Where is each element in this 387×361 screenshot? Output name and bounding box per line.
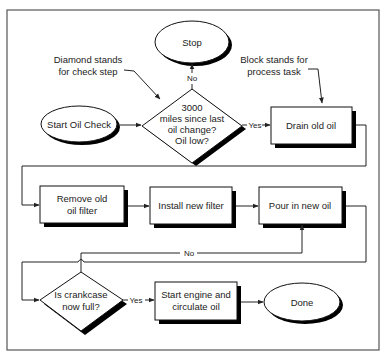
node-check-line4: Oil low? [175, 135, 209, 146]
edge-label-full-no: No [184, 249, 195, 258]
node-drain: Drain old oil [271, 107, 356, 148]
edge-label-check-yes: Yes [248, 121, 261, 130]
annotation-diamond-line1: Diamond stands [54, 54, 123, 65]
node-engine-line2: circulate oil [172, 301, 220, 312]
annotation-block-line2: process task [247, 66, 301, 77]
node-remove-line1: Remove old [57, 193, 108, 204]
annotation-diamond-arrow [124, 70, 160, 99]
node-pour-oil: Pour in new oil [259, 187, 346, 228]
node-full-diamond: Is crankcase now full? [40, 272, 127, 335]
annotation-diamond: Diamond stands for check step [54, 54, 160, 99]
node-remove-filter: Remove old oil filter [40, 186, 128, 227]
node-stop-label: Stop [182, 37, 202, 48]
annotation-block-arrow [308, 69, 322, 103]
node-pour-label: Pour in new oil [269, 200, 331, 211]
node-done-label: Done [291, 297, 314, 308]
node-install-filter: Install new filter [150, 187, 236, 228]
node-drain-label: Drain old oil [286, 120, 336, 131]
node-stop: Stop [155, 21, 232, 66]
node-remove-line2: oil filter [67, 205, 97, 216]
node-full-line1: Is crankcase [54, 289, 107, 300]
node-start-label: Start Oil Check [47, 119, 111, 130]
node-full-line2: now full? [62, 301, 100, 312]
annotation-block-line1: Block stands for [240, 54, 308, 65]
node-install-label: Install new filter [158, 200, 223, 211]
node-engine-line1: Start engine and [161, 289, 231, 300]
edge-label-check-no: No [187, 74, 198, 83]
node-check-diamond: 3000 miles since last oil change? Oil lo… [142, 89, 246, 166]
node-check-line2: miles since last [160, 113, 225, 124]
annotation-diamond-line2: for check step [58, 66, 117, 77]
node-done: Done [264, 283, 343, 324]
edge-full-to-pour-arrow [197, 225, 302, 253]
edge-label-full-yes: Yes [129, 296, 142, 305]
node-check-line3: oil change? [168, 124, 217, 135]
node-check-line1: 3000 [181, 102, 202, 113]
oil-change-flowchart: Diamond stands for check step Block stan… [0, 0, 387, 361]
node-start: Start Oil Check [41, 106, 120, 145]
node-start-engine: Start engine and circulate oil [155, 282, 241, 324]
annotation-block: Block stands for process task [240, 54, 322, 103]
